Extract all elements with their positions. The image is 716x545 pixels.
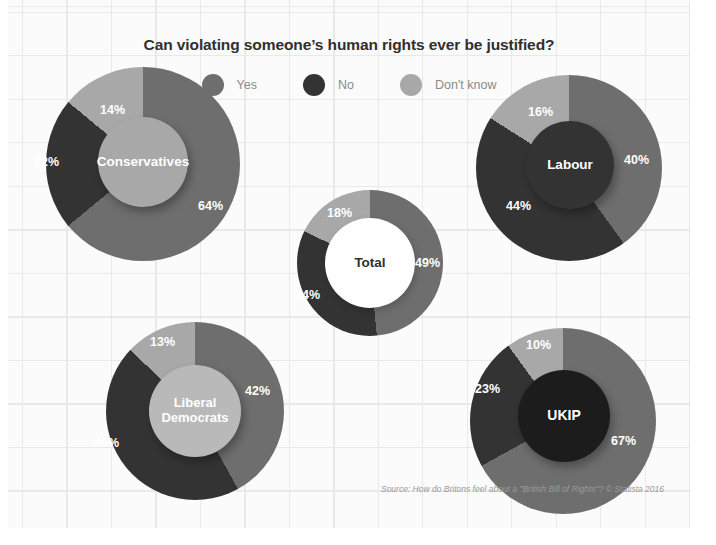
donut-label-conservatives: Conservatives xyxy=(97,154,189,169)
donut-total[interactable]: Total 49% 34% 18% xyxy=(297,190,443,336)
donut-hub-ukip: UKIP xyxy=(518,370,610,462)
donut-pct-dont-know-liberal-democrats: 13% xyxy=(150,335,175,349)
donut-hub-liberal-democrats: Liberal Democrats xyxy=(149,365,241,457)
legend-item-yes[interactable]: Yes xyxy=(202,74,257,96)
donut-pct-yes-total: 49% xyxy=(415,256,440,270)
legend-label-yes: Yes xyxy=(237,78,257,92)
donut-pct-dont-know-conservatives: 14% xyxy=(100,103,125,117)
donut-liberal-democrats[interactable]: Liberal Democrats 42% 45% 13% xyxy=(106,330,296,480)
donut-pct-no-labour: 44% xyxy=(506,199,531,213)
legend-swatch-dont-know xyxy=(400,74,422,96)
donut-hub-labour: Labour xyxy=(526,121,614,209)
donut-hub-total: Total xyxy=(325,218,415,308)
donut-hub-conservatives: Conservatives xyxy=(98,117,188,207)
legend-item-no[interactable]: No xyxy=(303,74,354,96)
legend-item-dont-know[interactable]: Don't know xyxy=(400,74,496,96)
legend-swatch-no xyxy=(303,74,325,96)
donut-pct-yes-liberal-democrats: 42% xyxy=(245,384,270,398)
donut-pct-no-liberal-democrats: 45% xyxy=(94,436,119,450)
donut-labour[interactable]: Labour 40% 44% 16% xyxy=(476,95,666,235)
donut-pct-no-conservatives: 22% xyxy=(34,155,59,169)
donut-pct-yes-labour: 40% xyxy=(624,153,649,167)
donut-label-labour: Labour xyxy=(547,157,593,172)
chart-panel: Can violating someone’s human rights eve… xyxy=(8,0,690,528)
legend-label-dont-know: Don't know xyxy=(435,78,496,92)
donut-conservatives[interactable]: Conservatives 64% 22% 14% xyxy=(46,95,236,235)
page-title: Can violating someone’s human rights eve… xyxy=(8,36,690,54)
donut-label-liberal-democrats: Liberal Democrats xyxy=(161,396,228,425)
donut-label-ukip: UKIP xyxy=(547,408,580,424)
donut-pct-yes-ukip: 67% xyxy=(611,434,636,448)
legend-label-no: No xyxy=(338,78,354,92)
donut-label-line-1: Liberal xyxy=(174,395,217,410)
donut-pct-no-ukip: 23% xyxy=(475,382,500,396)
donut-ukip[interactable]: UKIP 67% 23% 10% xyxy=(470,330,666,480)
donut-pct-dont-know-ukip: 10% xyxy=(526,338,551,352)
source-note: Source: How do Britons feel about a "Bri… xyxy=(381,484,664,494)
donut-pct-yes-conservatives: 64% xyxy=(198,199,223,213)
donut-pct-dont-know-total: 18% xyxy=(327,206,352,220)
donut-label-total: Total xyxy=(354,255,385,270)
donut-pct-no-total: 34% xyxy=(295,288,320,302)
donut-pct-dont-know-labour: 16% xyxy=(528,105,553,119)
donut-label-line-2: Democrats xyxy=(161,410,228,425)
